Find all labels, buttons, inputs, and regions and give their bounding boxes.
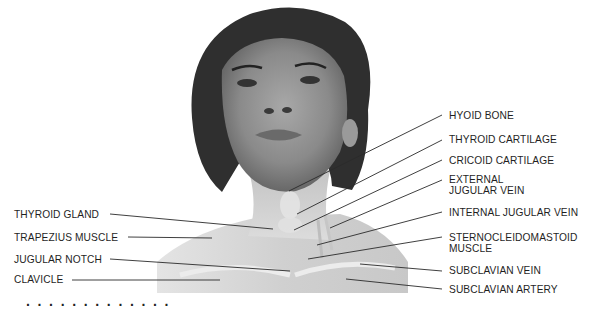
face bbox=[222, 38, 347, 192]
label-thyroid-cartilage: THYROID CARTILAGE bbox=[449, 134, 557, 145]
neck-anatomy-figure: THYROID GLAND TRAPEZIUS MUSCLE JUGULAR N… bbox=[0, 0, 597, 312]
label-clavicle: CLAVICLE bbox=[14, 274, 63, 285]
cutoff-caption: · · · · · · · · · · · · · bbox=[26, 303, 306, 312]
label-hyoid-bone: HYOID BONE bbox=[449, 110, 514, 121]
label-internal-jugular-vein: INTERNAL JUGULAR VEIN bbox=[449, 207, 578, 218]
cutoff-caption-text: · · · · · · · · · · · · · bbox=[26, 303, 306, 312]
label-subclavian-artery: SUBCLAVIAN ARTERY bbox=[449, 284, 558, 295]
label-external-jugular-vein: EXTERNAL JUGULAR VEIN bbox=[449, 174, 554, 196]
label-trapezius-muscle: TRAPEZIUS MUSCLE bbox=[14, 232, 118, 243]
label-jugular-notch: JUGULAR NOTCH bbox=[14, 254, 102, 265]
label-thyroid-gland: THYROID GLAND bbox=[14, 209, 99, 220]
label-cricoid-cartilage: CRICOID CARTILAGE bbox=[449, 155, 554, 166]
label-subclavian-vein: SUBCLAVIAN VEIN bbox=[449, 265, 541, 276]
label-sternocleidomastoid-muscle: STERNOCLEIDOMASTOID MUSCLE bbox=[449, 232, 589, 254]
